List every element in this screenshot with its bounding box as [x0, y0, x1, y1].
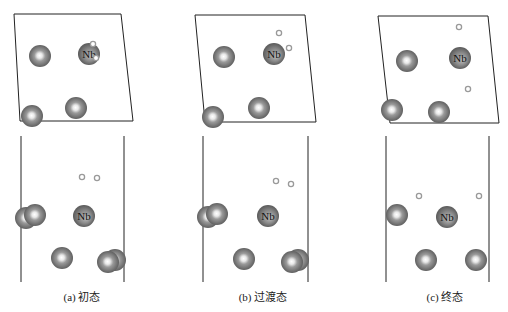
host-atom [428, 101, 450, 123]
host-atom [206, 203, 228, 225]
host-atom [233, 248, 255, 270]
host-atom [386, 204, 408, 226]
solute-small-atom [416, 193, 421, 198]
nb-atom: Nb [257, 205, 279, 227]
host-atom [248, 97, 270, 119]
nb-atom: Nb [436, 206, 458, 228]
solute-small-atom [286, 45, 291, 50]
nb-atom: Nb [449, 47, 471, 69]
host-atom [21, 105, 43, 127]
panel-c: NbNb [378, 16, 499, 282]
host-atom [24, 204, 46, 226]
solute-small-atom [276, 30, 281, 35]
nb-label: Nb [267, 48, 281, 60]
solute-small-atom [288, 181, 293, 186]
solute-small-atom [273, 178, 278, 183]
nb-label: Nb [440, 211, 454, 223]
host-atom [97, 251, 119, 273]
host-atom [202, 106, 224, 128]
panel-caption-c: (c) 终态 [427, 288, 464, 304]
host-atom [65, 97, 87, 119]
panel-caption-a: (a) 初态 [64, 288, 101, 304]
nb-label: Nb [77, 210, 91, 222]
solute-small-atom [90, 41, 95, 46]
host-atom [396, 50, 418, 72]
panel-b: NbNb [195, 15, 316, 282]
panel-caption-b: (b) 过渡态 [239, 288, 288, 304]
host-atom [281, 251, 303, 273]
solute-small-atom [79, 174, 84, 179]
host-atom [381, 99, 403, 121]
host-atom [51, 247, 73, 269]
nb-atom: Nb [263, 43, 285, 65]
host-atom [213, 46, 235, 68]
nb-atom: Nb [73, 205, 95, 227]
host-atom [415, 249, 437, 271]
nb-diffusion-figure: NbNbNbNbNbNb [0, 0, 508, 312]
nb-atom: Nb [78, 43, 100, 65]
nb-label: Nb [453, 52, 467, 64]
host-atom [465, 249, 487, 271]
host-atom [29, 45, 51, 67]
panel-a: NbNb [14, 14, 133, 282]
solute-small-atom [456, 24, 461, 29]
solute-small-atom [93, 55, 98, 60]
nb-label: Nb [261, 210, 275, 222]
solute-small-atom [476, 193, 481, 198]
solute-small-atom [94, 175, 99, 180]
solute-small-atom [465, 86, 470, 91]
